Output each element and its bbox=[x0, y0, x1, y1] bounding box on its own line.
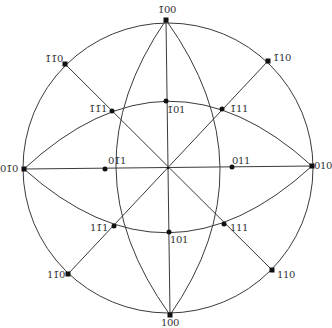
pole-marker-m101 bbox=[164, 99, 169, 104]
pole-label-m010: 01̄0 bbox=[0, 164, 18, 174]
pole-marker-p111 bbox=[222, 222, 227, 227]
pole-marker-m111 bbox=[220, 107, 225, 112]
pole-marker-pm110 bbox=[66, 272, 71, 277]
pole-label-m011: 01̄1 bbox=[108, 156, 126, 166]
pole-label-p100: 100 bbox=[161, 318, 179, 328]
pole-marker-m100 bbox=[164, 18, 169, 23]
pole-label-m110: 1̄10 bbox=[273, 53, 291, 63]
pole-label-p110: 110 bbox=[277, 270, 295, 280]
pole-label-p011: 011 bbox=[232, 156, 250, 166]
pole-marker-p110 bbox=[270, 268, 275, 273]
pole-marker-pm111 bbox=[112, 224, 117, 229]
pole-label-p010: 010 bbox=[314, 161, 332, 171]
pole-label-mm111: 1̄1̄1 bbox=[89, 104, 107, 114]
pole-label-pm111: 11̄1 bbox=[90, 223, 108, 233]
pole-marker-m011 bbox=[103, 167, 108, 172]
pole-label-m101: 1̄01 bbox=[167, 105, 185, 115]
pole-label-m111: 1̄11 bbox=[230, 104, 248, 114]
pole-label-pm110: 11̄0 bbox=[47, 270, 65, 280]
pole-label-m100: 1̄00 bbox=[158, 5, 176, 15]
pole-label-mm110: 1̄1̄0 bbox=[45, 54, 63, 64]
pole-label-p111: 111 bbox=[230, 223, 248, 233]
pole-marker-m110 bbox=[266, 59, 271, 64]
pole-marker-mm111 bbox=[110, 109, 115, 114]
pole-marker-mm110 bbox=[63, 62, 68, 67]
center-pole-001 bbox=[167, 167, 169, 169]
pole-label-p101: 101 bbox=[170, 235, 188, 245]
pole-marker-m010 bbox=[22, 167, 27, 172]
